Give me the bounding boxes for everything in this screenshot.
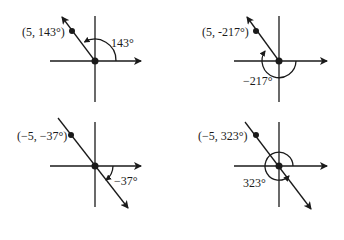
- angle-label-1: 143°: [111, 37, 134, 49]
- panel-4: [234, 122, 327, 209]
- angle-label-2: −217°: [243, 75, 273, 87]
- point-label-4: (−5, 323°): [198, 130, 248, 142]
- point-label-3: (−5, −37°): [17, 130, 67, 142]
- angle-label-4: 323°: [243, 177, 266, 189]
- point-label-1: (5, 143°): [22, 26, 65, 38]
- angle-label-3: −37°: [114, 175, 138, 187]
- point-label-2: (5, -217°): [202, 26, 249, 38]
